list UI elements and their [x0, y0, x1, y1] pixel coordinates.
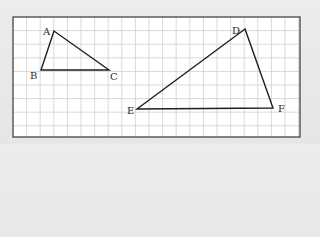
vertex-label-d: D [232, 25, 240, 36]
vertex-label-e: E [127, 105, 134, 116]
diagram-stage: ABCDEF [0, 0, 313, 144]
grid-paper [13, 17, 300, 137]
vertex-label-b: B [30, 70, 37, 81]
vertex-label-a: A [42, 26, 51, 37]
geometry-diagram: ABCDEF [0, 0, 313, 144]
vertex-label-f: F [278, 103, 285, 114]
vertex-label-c: C [110, 71, 118, 82]
